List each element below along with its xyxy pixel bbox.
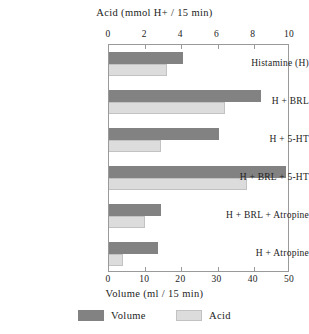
bottom-axis-tick-label: 40	[248, 274, 258, 284]
top-axis-title: Acid (mmol H+ / 15 min)	[0, 7, 309, 18]
category-label: H + Atropine	[205, 248, 309, 258]
plot-area	[108, 44, 289, 272]
legend-label: Acid	[209, 310, 231, 321]
bar-acid	[109, 254, 123, 266]
bottom-axis-tick	[145, 267, 146, 271]
bar-volume	[109, 52, 183, 64]
top-axis-tick-label: 10	[284, 29, 294, 39]
top-axis-tick	[254, 45, 255, 49]
bar-acid	[109, 140, 161, 152]
legend-item[interactable]: Volume	[78, 310, 146, 321]
legend-swatch-acid	[176, 310, 202, 321]
category-label: H + 5-HT	[205, 134, 309, 144]
top-axis-tick	[145, 45, 146, 49]
top-axis-tick	[181, 45, 182, 49]
bottom-axis-tick-label: 0	[105, 274, 110, 284]
bottom-axis-tick	[181, 267, 182, 271]
top-axis-tick	[218, 45, 219, 49]
category-label: H + BRL + Atropine	[205, 210, 309, 220]
top-axis-tick-label: 0	[105, 29, 110, 39]
bottom-axis-tick-label: 50	[284, 274, 294, 284]
category-label: H + BRL + 5-HT	[205, 172, 309, 182]
top-axis-tick-label: 8	[250, 29, 255, 39]
category-label: Histamine (H)	[205, 58, 309, 68]
legend-swatch-volume	[78, 310, 104, 321]
bar-acid	[109, 216, 145, 228]
chart-legend: VolumeAcid	[0, 310, 309, 321]
legend-label: Volume	[111, 310, 146, 321]
bar-acid	[109, 64, 167, 76]
bottom-axis-tick	[218, 267, 219, 271]
bottom-axis-tick-label: 10	[139, 274, 149, 284]
bottom-axis-title: Volume (ml / 15 min)	[0, 288, 309, 299]
bottom-axis-tick-label: 20	[175, 274, 185, 284]
bar-volume	[109, 204, 161, 216]
bottom-axis-tick-label: 30	[212, 274, 222, 284]
bar-volume	[109, 128, 219, 140]
bar-volume	[109, 242, 158, 254]
top-axis-tick-label: 4	[178, 29, 183, 39]
top-axis-tick-label: 2	[142, 29, 147, 39]
category-label: H + BRL	[205, 96, 309, 106]
top-axis-tick-label: 6	[214, 29, 219, 39]
grouped-bar-chart: Acid (mmol H+ / 15 min) 0246810 Histamin…	[0, 0, 309, 334]
legend-item[interactable]: Acid	[176, 310, 231, 321]
bottom-axis-tick	[254, 267, 255, 271]
